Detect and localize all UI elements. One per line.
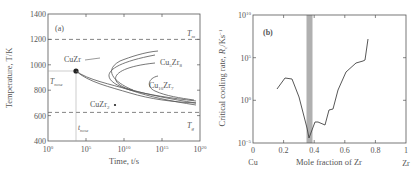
zr-end-label: Zr — [402, 159, 410, 168]
svg-text:1015: 1015 — [156, 145, 170, 154]
critical-cooling-rate-curve — [277, 39, 368, 138]
plot-b-frame — [253, 15, 406, 143]
plot-b-xlabel: Mole fraction of Zr — [296, 157, 362, 167]
svg-text:1: 1 — [404, 146, 408, 155]
label-cuzr: CuZr — [64, 55, 81, 64]
plot-a-frame — [48, 14, 200, 141]
plot-a-yticks — [48, 14, 200, 141]
curve-cuzr — [76, 71, 196, 101]
svg-text:600: 600 — [34, 112, 46, 121]
plot-b-ylabel: Critical cooling rate, Rc/Ks−1 — [217, 29, 228, 126]
svg-text:100: 100 — [241, 96, 252, 105]
svg-text:1200: 1200 — [30, 35, 46, 44]
plot-b-panel-label: (b) — [263, 28, 273, 37]
label-cuzr2: CuZr2 — [90, 100, 110, 110]
svg-text:105: 105 — [241, 54, 252, 63]
svg-text:0.8: 0.8 — [370, 146, 380, 155]
plot-b-ticks — [253, 15, 406, 143]
svg-text:1010: 1010 — [238, 11, 252, 20]
svg-text:800: 800 — [34, 86, 46, 95]
plot-a-ytick-labels: 1400 1200 1000 800 600 400 — [30, 10, 46, 146]
shaded-band — [307, 15, 313, 143]
plot-a-xtick-labels: 100 105 1010 1015 1020 — [43, 145, 207, 154]
plot-a-xlabel: Time, t/s — [109, 156, 139, 166]
panel-b: 1010 105 100 10−5 0 0.2 0.4 0.6 0.8 1 Cu… — [217, 11, 410, 168]
svg-text:105: 105 — [81, 145, 92, 154]
svg-text:1000: 1000 — [30, 61, 46, 70]
plot-b-ytick-labels: 1010 105 100 10−5 — [238, 11, 252, 148]
tnose-T-label: Tnose — [50, 77, 62, 87]
svg-text:1400: 1400 — [30, 10, 46, 19]
plot-b-xtick-labels: 0 0.2 0.4 0.6 0.8 1 — [251, 146, 408, 155]
curve-cu5zr8-outer — [109, 55, 196, 105]
cuzr2-marker — [114, 104, 116, 106]
tg-label: Tg — [187, 121, 194, 131]
plot-a-panel-label: (a) — [55, 24, 64, 33]
curve-cuzr2 — [76, 71, 196, 103]
tnose-t-label: tnose — [78, 123, 88, 133]
cuzr-leader — [85, 58, 100, 60]
figure: 1400 1200 1000 800 600 400 100 105 1010 … — [0, 0, 419, 180]
svg-text:0.6: 0.6 — [340, 146, 350, 155]
plot-a-ylabel: Temperature, T/K — [4, 47, 14, 108]
svg-text:0.2: 0.2 — [279, 146, 289, 155]
label-cu10zr7: Cu10Zr7 — [149, 81, 174, 91]
label-cu5zr8: Cu5Zr8 — [160, 58, 182, 68]
panel-a: 1400 1200 1000 800 600 400 100 105 1010 … — [4, 10, 207, 166]
tm-label: Tm — [187, 29, 195, 39]
cu-end-label: Cu — [248, 158, 257, 167]
svg-text:0: 0 — [251, 146, 255, 155]
svg-text:100: 100 — [43, 145, 54, 154]
svg-text:0.4: 0.4 — [309, 146, 319, 155]
svg-text:10−5: 10−5 — [238, 139, 252, 148]
svg-text:1010: 1010 — [118, 145, 132, 154]
svg-text:1020: 1020 — [194, 145, 208, 154]
